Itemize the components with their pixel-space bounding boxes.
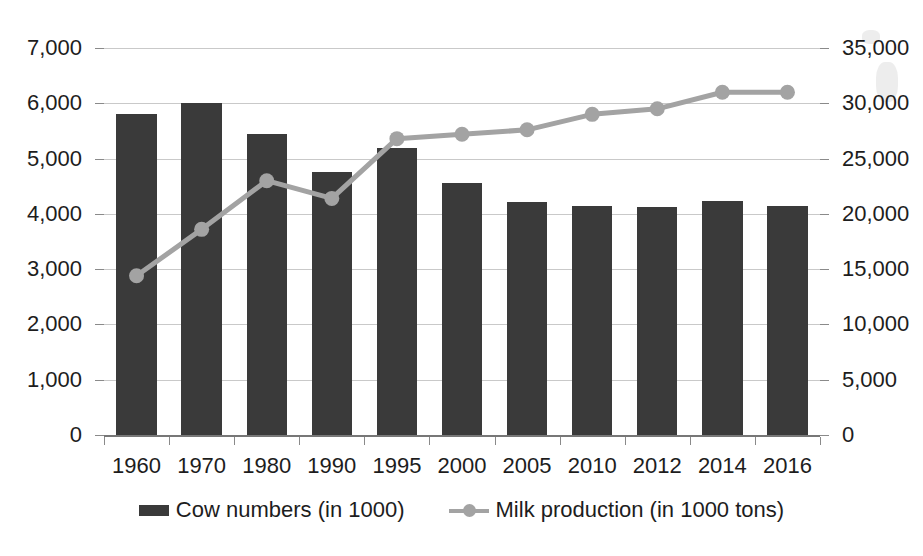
x-axis-tick-label: 1960: [104, 455, 169, 477]
line-marker: [455, 127, 470, 142]
y-axis-left-tick-label: 0: [0, 424, 82, 446]
x-axis-tick: [820, 437, 821, 445]
chart-legend: Cow numbers (in 1000)Milk production (in…: [0, 498, 923, 522]
x-axis-tick: [299, 437, 300, 445]
x-axis-tick: [495, 437, 496, 445]
line-marker: [715, 85, 730, 100]
y-axis-right-tick: [820, 48, 829, 49]
x-axis-tick: [364, 437, 365, 445]
y-axis-right-tick-label: 35,000: [842, 37, 909, 59]
y-axis-right-tick: [820, 103, 829, 104]
plot-area: [104, 48, 820, 435]
line-marker: [259, 173, 274, 188]
line-marker: [129, 268, 144, 283]
y-axis-left-tick: [95, 159, 104, 160]
y-axis-left-tick-label: 6,000: [0, 92, 82, 114]
y-axis-left-tick: [95, 103, 104, 104]
y-axis-left-tick: [95, 48, 104, 49]
y-axis-left-tick-label: 5,000: [0, 148, 82, 170]
y-axis-left-tick-label: 3,000: [0, 258, 82, 280]
x-axis-tick: [625, 437, 626, 445]
line-marker: [650, 101, 665, 116]
x-axis-tick-label: 2010: [560, 455, 625, 477]
x-axis-tick: [429, 437, 430, 445]
y-axis-right-tick-label: 30,000: [842, 92, 909, 114]
line-path-milk-production: [137, 92, 788, 276]
x-axis-tick-label: 2014: [690, 455, 755, 477]
legend-bar-swatch-icon: [139, 505, 169, 516]
y-axis-left-tick: [95, 435, 104, 436]
x-axis-tick-label: 2000: [429, 455, 494, 477]
y-axis-left-tick-label: 7,000: [0, 37, 82, 59]
y-axis-right-tick: [820, 269, 829, 270]
y-axis-right-tick-label: 25,000: [842, 148, 909, 170]
y-axis-left-tick-label: 4,000: [0, 203, 82, 225]
x-axis-tick-label: 2005: [495, 455, 560, 477]
legend-line-dot: [463, 504, 476, 517]
line-series-milk-production: [104, 48, 820, 435]
line-marker: [194, 222, 209, 237]
y-axis-right-tick-label: 0: [842, 424, 854, 446]
line-marker: [780, 85, 795, 100]
y-axis-right-tick-label: 5,000: [842, 369, 897, 391]
y-axis-right-tick: [820, 435, 829, 436]
y-axis-left-tick: [95, 324, 104, 325]
x-axis-tick-label: 1990: [299, 455, 364, 477]
line-marker: [389, 131, 404, 146]
x-axis-tick-label: 2016: [755, 455, 820, 477]
line-marker: [585, 107, 600, 122]
y-axis-right-tick: [820, 159, 829, 160]
y-axis-left-tick: [95, 269, 104, 270]
x-axis-tick: [104, 437, 105, 445]
x-axis-tick-label: 1995: [364, 455, 429, 477]
y-axis-right-tick: [820, 380, 829, 381]
legend-item[interactable]: Milk production (in 1000 tons): [449, 498, 785, 522]
dual-axis-chart: 01,0002,0003,0004,0005,0006,0007,000 05,…: [0, 0, 923, 556]
x-axis-tick: [234, 437, 235, 445]
line-marker: [324, 191, 339, 206]
x-axis-tick-label: 2012: [625, 455, 690, 477]
x-axis-tick: [755, 437, 756, 445]
x-axis-tick: [169, 437, 170, 445]
y-axis-right-tick: [820, 324, 829, 325]
y-axis-right-tick-label: 15,000: [842, 258, 909, 280]
line-marker: [520, 122, 535, 137]
legend-item[interactable]: Cow numbers (in 1000): [139, 498, 405, 522]
x-axis-tick: [690, 437, 691, 445]
legend-line-marker-swatch-icon: [449, 503, 489, 517]
y-axis-right-tick-label: 20,000: [842, 203, 909, 225]
y-axis-left-tick: [95, 214, 104, 215]
x-axis-tick: [560, 437, 561, 445]
x-axis-tick-label: 1980: [234, 455, 299, 477]
legend-label: Milk production (in 1000 tons): [496, 498, 785, 522]
y-axis-left-tick-label: 1,000: [0, 369, 82, 391]
y-axis-left-tick-label: 2,000: [0, 313, 82, 335]
y-axis-right-tick-label: 10,000: [842, 313, 909, 335]
y-axis-right-tick: [820, 214, 829, 215]
x-axis-baseline: [104, 435, 820, 437]
legend-label: Cow numbers (in 1000): [176, 498, 405, 522]
y-axis-left-tick: [95, 380, 104, 381]
x-axis-tick-label: 1970: [169, 455, 234, 477]
